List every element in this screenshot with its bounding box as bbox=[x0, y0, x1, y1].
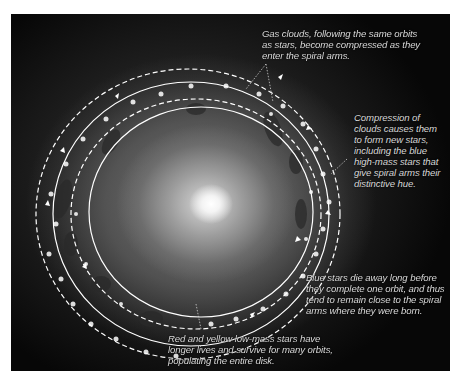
caption-line: give spiral arms their bbox=[354, 167, 440, 178]
caption-red-yellow-stars: Red and yellow low-mass stars have longe… bbox=[168, 333, 333, 366]
caption-line: distinctive hue. bbox=[354, 178, 440, 189]
caption-line: clouds causes them bbox=[354, 123, 440, 134]
caption-line: including the blue bbox=[354, 145, 440, 156]
caption-line: tend to remain close to the spiral bbox=[306, 294, 445, 305]
caption-compression: Compression of clouds causes them to for… bbox=[354, 112, 440, 189]
caption-line: populating the entire disk. bbox=[168, 355, 333, 366]
caption-line: as stars, become compressed as they bbox=[262, 39, 420, 50]
caption-line: Red and yellow low-mass stars have bbox=[168, 333, 333, 344]
caption-line: to form new stars, bbox=[354, 134, 440, 145]
caption-line: enter the spiral arms. bbox=[262, 50, 420, 61]
caption-line: arms where they were born. bbox=[306, 305, 445, 316]
caption-line: longer lives and survive for many orbits… bbox=[168, 344, 333, 355]
orbit-diagram bbox=[11, 14, 450, 371]
galaxy-photo bbox=[11, 14, 450, 371]
caption-line: Gas clouds, following the same orbits bbox=[262, 28, 420, 39]
caption-line: Compression of bbox=[354, 112, 440, 123]
caption-gas-clouds: Gas clouds, following the same orbits as… bbox=[262, 28, 420, 61]
caption-line: they complete one orbit, and thus bbox=[306, 283, 445, 294]
caption-blue-stars: Blue stars die away long before they com… bbox=[306, 272, 445, 316]
caption-line: Blue stars die away long before bbox=[306, 272, 445, 283]
caption-line: high-mass stars that bbox=[354, 156, 440, 167]
